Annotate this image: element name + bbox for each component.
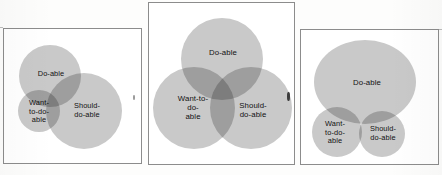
middle-panel-inner: Do-able Want-to- do- able Should- do-abl… — [149, 3, 294, 164]
scan-speck-artifact-b — [287, 92, 290, 101]
left-panel-inner: Do-able Want- to-do- able Should- do-abl… — [4, 29, 141, 163]
label-should-right: Should- do-able — [370, 125, 396, 142]
left-panel: Do-able Want- to-do- able Should- do-abl… — [3, 28, 142, 164]
figure-page: Do-able Want- to-do- able Should- do-abl… — [0, 0, 442, 175]
label-should-middle: Should- do-able — [239, 101, 267, 119]
middle-panel: Do-able Want-to- do- able Should- do-abl… — [148, 2, 295, 165]
label-want-middle: Want-to- do- able — [178, 94, 208, 121]
label-doable-middle: Do-able — [209, 48, 237, 57]
right-venn-stage — [301, 30, 438, 164]
label-doable-right: Do-able — [353, 78, 381, 87]
scan-speck-artifact-a — [133, 95, 135, 100]
right-panel: Do-able Want- to-do- able Should- do-abl… — [300, 29, 439, 165]
label-should-left: Should- do-able — [74, 102, 100, 119]
label-doable-left: Do-able — [38, 70, 65, 79]
left-venn-stage — [4, 29, 141, 163]
label-want-right: Want- to-do- able — [325, 120, 345, 146]
label-want-left: Want- to-do- able — [29, 99, 49, 125]
right-panel-inner: Do-able Want- to-do- able Should- do-abl… — [301, 30, 438, 164]
middle-venn-stage — [149, 3, 294, 164]
